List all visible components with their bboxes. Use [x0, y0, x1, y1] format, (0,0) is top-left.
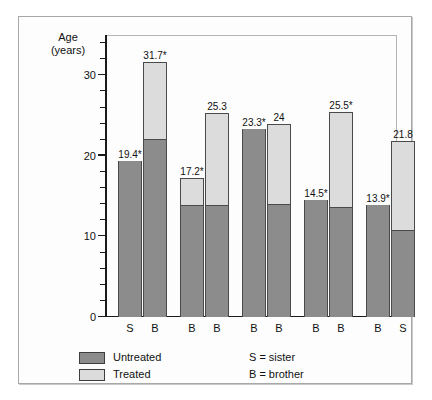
y-tick-minor	[100, 300, 105, 301]
bar-segment-treated	[206, 114, 228, 205]
bar-category-label: B	[188, 322, 195, 334]
y-tick-minor	[100, 219, 105, 220]
bar-value-label: 31.7*	[143, 50, 166, 61]
bar-category-label: B	[312, 322, 319, 334]
y-tick-minor	[100, 107, 105, 108]
y-tick-minor	[100, 284, 105, 285]
y-tick-minor	[100, 123, 105, 124]
bar-segment-treated	[181, 179, 203, 205]
bar: 19.4*S	[118, 161, 142, 317]
y-tick-minor	[100, 90, 105, 91]
bar-value-label: 23.3*	[242, 117, 265, 128]
y-tick-minor	[100, 139, 105, 140]
bar-category-label: S	[399, 322, 406, 334]
bar-segment-untreated	[330, 207, 352, 317]
bar-segment-treated	[392, 142, 414, 230]
y-tick-minor	[100, 252, 105, 253]
legend-label: Treated	[113, 368, 151, 380]
bar: 31.7*B	[143, 62, 167, 317]
legend-swatch	[79, 352, 105, 364]
y-tick-minor	[100, 58, 105, 59]
bar-value-label: 25.5*	[329, 100, 352, 111]
bar-value-label: 13.9*	[366, 193, 389, 204]
bar-category-label: B	[151, 322, 158, 334]
bar: 25.5*B	[329, 112, 353, 317]
bar: 13.9*B	[366, 205, 390, 317]
bar-category-label: B	[374, 322, 381, 334]
bar-segment-treated	[144, 63, 166, 139]
y-tick-minor	[100, 187, 105, 188]
bar-segment-untreated	[243, 129, 265, 317]
bar-segment-treated	[330, 113, 352, 207]
bar: 23.3*B	[242, 129, 266, 317]
bar: 14.5*B	[304, 200, 328, 317]
bar-value-label: 24	[273, 112, 284, 123]
y-tick-minor	[100, 42, 105, 43]
y-tick-major	[98, 316, 105, 318]
bar: 25.3B	[205, 113, 229, 317]
y-tick-label: 0	[90, 311, 96, 323]
legend: UntreatedTreated S = sisterB = brother	[79, 351, 379, 391]
bar-value-label: 19.4*	[118, 149, 141, 160]
bar-value-label: 14.5*	[304, 188, 327, 199]
legend-swatch	[79, 369, 105, 381]
bar-value-label: 17.2*	[180, 166, 203, 177]
y-tick-major	[98, 235, 105, 237]
legend-label: Untreated	[113, 351, 161, 363]
bar-segment-untreated	[268, 204, 290, 317]
y-tick-label: 20	[84, 150, 96, 162]
y-tick-minor	[100, 203, 105, 204]
y-tick-minor	[100, 268, 105, 269]
y-axis	[105, 35, 107, 317]
bar-category-label: S	[126, 322, 133, 334]
bar-segment-untreated	[206, 205, 228, 317]
bar-segment-untreated	[367, 205, 389, 317]
bar-category-label: B	[213, 322, 220, 334]
bar: 24B	[267, 124, 291, 317]
y-tick-label: 30	[84, 69, 96, 81]
bar-segment-untreated	[119, 161, 141, 317]
figure-panel: Age (years) 0102030 19.4*S31.7*B17.2*B25…	[18, 16, 412, 384]
y-tick-label: 10	[84, 230, 96, 242]
bar-segment-untreated	[305, 200, 327, 317]
legend-key: B = brother	[249, 368, 304, 380]
bar: 17.2*B	[180, 178, 204, 317]
bar-category-label: B	[250, 322, 257, 334]
bar-segment-treated	[268, 125, 290, 205]
y-axis-title: Age (years)	[29, 31, 107, 57]
bar-category-label: B	[337, 322, 344, 334]
bar-category-label: B	[275, 322, 282, 334]
y-tick-major	[98, 74, 105, 76]
bar-segment-untreated	[392, 230, 414, 317]
bar-segment-untreated	[144, 139, 166, 317]
bar-value-label: 21.8	[393, 129, 412, 140]
bar-value-label: 25.3	[207, 101, 226, 112]
y-tick-minor	[100, 171, 105, 172]
bar: 21.8S	[391, 141, 415, 317]
bar-segment-untreated	[181, 205, 203, 317]
y-tick-major	[98, 154, 105, 156]
legend-key: S = sister	[249, 351, 295, 363]
plot-area: 0102030 19.4*S31.7*B17.2*B25.3B23.3*B24B…	[105, 35, 397, 317]
